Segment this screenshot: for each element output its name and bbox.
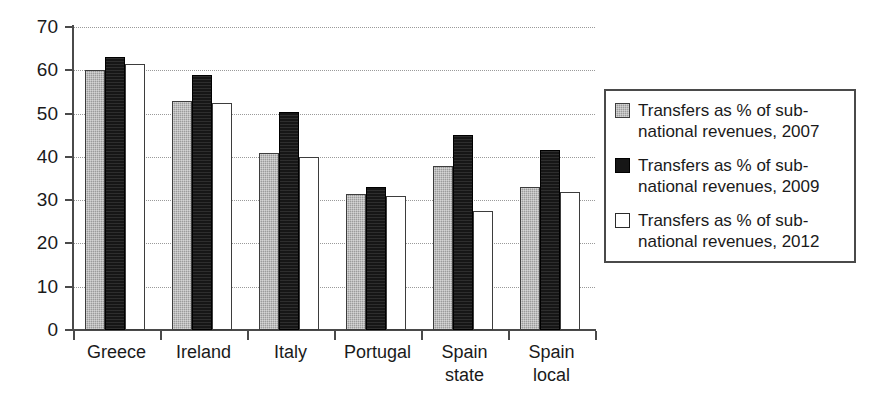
bar-group [346,27,406,330]
bar [560,192,580,331]
bar [520,187,540,330]
y-tick-label-20: 20 [18,233,58,252]
gridline-50 [73,114,595,115]
legend-label-2012: Transfers as % of sub- national revenues… [638,210,819,252]
bar [453,135,473,330]
legend-label-2007: Transfers as % of sub- national revenues… [638,100,819,142]
y-tick-label-0: 0 [18,320,58,339]
bar [172,101,192,330]
x-tick-mark [73,331,75,340]
bar-group [433,27,493,330]
bar-group [259,27,319,330]
y-tick-label-40: 40 [18,147,58,166]
x-tick-mark [247,331,249,340]
legend-swatch-icon-2012 [615,213,630,228]
bar [212,103,232,330]
y-tick-label-70: 70 [18,17,58,36]
bar [192,75,212,330]
bar-group [85,27,145,330]
bar [366,187,386,330]
y-tick-label-60: 60 [18,60,58,79]
y-tick-label-30: 30 [18,190,58,209]
gridline-60 [73,70,595,71]
bar [85,70,105,330]
x-tick-mark [595,331,597,340]
y-tick-label-50: 50 [18,104,58,123]
bar [105,57,125,330]
y-tick-label-10: 10 [18,277,58,296]
bar-chart: 010203040506070 GreeceIrelandItalyPortug… [0,0,890,403]
legend-label-2009: Transfers as % of sub- national revenues… [638,155,819,197]
bar [540,150,560,330]
legend-item-2012[interactable]: Transfers as % of sub- national revenues… [615,210,846,252]
legend-box: Transfers as % of sub- national revenues… [604,89,856,263]
legend-item-2007[interactable]: Transfers as % of sub- national revenues… [615,100,846,142]
bar [386,196,406,330]
legend-item-2009[interactable]: Transfers as % of sub- national revenues… [615,155,846,197]
x-tick-mark [334,331,336,340]
gridline-30 [73,200,595,201]
x-tick-mark [508,331,510,340]
bar [125,64,145,330]
gridline-70 [73,27,595,28]
bar-group [172,27,232,330]
x-tick-mark [421,331,423,340]
bar [279,112,299,330]
bar-group [520,27,580,330]
x-axis-label-spain-local: Spain local [492,341,612,387]
bar [433,166,453,330]
bar [473,211,493,330]
bar [299,157,319,330]
gridline-20 [73,243,595,244]
bar [259,153,279,330]
plot-area [73,27,595,330]
y-axis-line [72,25,74,331]
legend-swatch-icon-2007 [615,103,630,118]
bar [346,194,366,330]
gridline-40 [73,157,595,158]
x-tick-mark [160,331,162,340]
gridline-10 [73,287,595,288]
legend-swatch-icon-2009 [615,158,630,173]
